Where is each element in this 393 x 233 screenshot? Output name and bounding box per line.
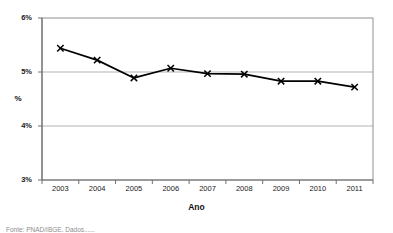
y-tick-label: 5% bbox=[10, 67, 32, 76]
y-tick-label: 4% bbox=[10, 121, 32, 130]
x-axis-title: Ano bbox=[0, 202, 393, 212]
x-tick-label: 2003 bbox=[43, 184, 77, 193]
y-tick-label: 3% bbox=[10, 175, 32, 184]
plot-background bbox=[42, 18, 373, 180]
x-tick-label: 2006 bbox=[154, 184, 188, 193]
chart-figure: 3%4%5%6% 2003200420052006200720082009201… bbox=[0, 0, 393, 233]
x-tick-label: 2004 bbox=[80, 184, 114, 193]
line-chart-plot bbox=[0, 0, 393, 233]
x-tick-label: 2011 bbox=[338, 184, 372, 193]
x-tick-label: 2009 bbox=[264, 184, 298, 193]
source-caption: Fonte: PNAD/IBGE. Dados...... bbox=[6, 226, 386, 233]
x-tick-label: 2010 bbox=[301, 184, 335, 193]
x-tick-label: 2008 bbox=[227, 184, 261, 193]
y-axis-title: % bbox=[8, 94, 28, 103]
y-tick-label: 6% bbox=[10, 13, 32, 22]
x-tick-label: 2005 bbox=[117, 184, 151, 193]
x-tick-label: 2007 bbox=[191, 184, 225, 193]
